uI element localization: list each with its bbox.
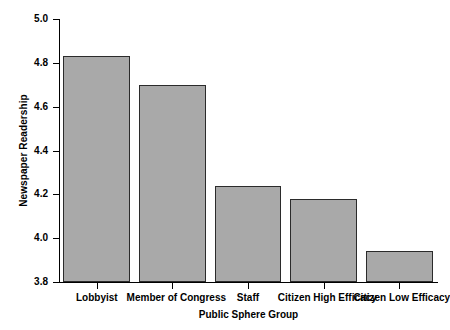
x-tick-mark [97,283,98,289]
bar-citizen-low-efficacy [366,251,433,282]
bar-staff [215,186,282,282]
x-tick-label: Citizen Low Efficacy [353,292,445,304]
y-tick-label: 4.0 [2,233,48,243]
y-tick-label: 4.4 [2,146,48,156]
bar-chart-figure: Newspaper Readership 5.04.84.64.44.24.03… [0,0,450,330]
y-tick-label: 3.8 [2,277,48,287]
y-tick-label: 5.0 [2,14,48,24]
bar-lobbyist [63,56,130,282]
y-tick-mark [53,282,59,283]
y-tick-label: 4.2 [2,189,48,199]
x-axis-title: Public Sphere Group [59,309,438,321]
x-tick-mark [172,283,173,289]
x-tick-mark [324,283,325,289]
bar-citizen-high-efficacy [290,199,357,282]
bar-member-of-congress [139,85,206,282]
plot-area [59,19,437,282]
y-tick-label: 4.6 [2,102,48,112]
x-tick-mark [248,283,249,289]
x-tick-mark [399,283,400,289]
y-tick-label: 4.8 [2,58,48,68]
